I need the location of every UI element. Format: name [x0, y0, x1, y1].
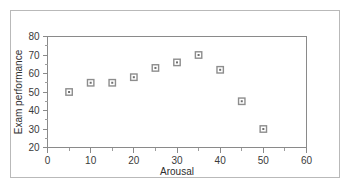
data-point: [217, 67, 223, 73]
data-point: [195, 52, 201, 58]
x-axis-title: Arousal: [160, 166, 194, 177]
y-tick-label: 80: [28, 31, 40, 42]
x-tick-label: 10: [85, 155, 97, 166]
data-point: [87, 80, 93, 86]
marker-center-dot: [198, 54, 200, 56]
marker-center-dot: [262, 128, 264, 130]
y-tick-label: 30: [28, 124, 40, 135]
x-axis-tick-labels: 0102030405060: [45, 155, 313, 166]
marker-center-dot: [133, 76, 135, 78]
y-axis-title: Exam performance: [13, 49, 24, 134]
data-point: [109, 80, 115, 86]
y-tick-label: 40: [28, 105, 40, 116]
marker-center-dot: [90, 82, 92, 84]
x-tick-label: 50: [258, 155, 270, 166]
data-point-series: [66, 52, 267, 132]
x-tick-label: 0: [45, 155, 51, 166]
marker-center-dot: [68, 91, 70, 93]
y-tick-label: 60: [28, 68, 40, 79]
marker-center-dot: [111, 82, 113, 84]
data-point: [131, 74, 137, 80]
y-tick-label: 20: [28, 142, 40, 153]
scatter-chart: 20304050607080 0102030405060 Exam perfor…: [0, 0, 352, 190]
y-tick-label: 50: [28, 87, 40, 98]
data-point: [260, 126, 266, 132]
data-point: [174, 59, 180, 65]
y-tick-label: 70: [28, 50, 40, 61]
y-axis-ticks: [43, 37, 48, 148]
x-tick-label: 30: [171, 155, 183, 166]
data-point: [239, 98, 245, 104]
marker-center-dot: [219, 69, 221, 71]
x-axis-ticks: [48, 148, 307, 153]
x-tick-label: 60: [301, 155, 313, 166]
marker-center-dot: [241, 100, 243, 102]
data-point: [66, 89, 72, 95]
plot-frame: [48, 37, 307, 148]
y-axis-tick-labels: 20304050607080: [28, 31, 40, 153]
figure-container: 20304050607080 0102030405060 Exam perfor…: [0, 0, 352, 190]
x-tick-label: 40: [215, 155, 227, 166]
data-point: [152, 65, 158, 71]
x-tick-label: 20: [128, 155, 140, 166]
marker-center-dot: [176, 61, 178, 63]
marker-center-dot: [154, 67, 156, 69]
